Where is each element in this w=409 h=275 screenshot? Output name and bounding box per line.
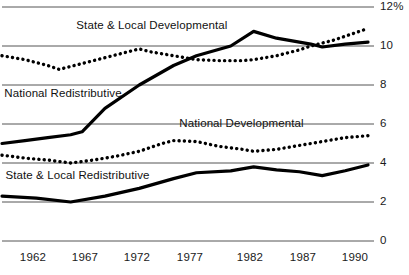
y-axis-label-8: 8 <box>380 78 387 90</box>
y-axis-label-2: 2 <box>380 195 387 207</box>
series-label-3: State & Local Redistributive <box>5 169 149 181</box>
x-axis-label-1987: 1987 <box>290 251 316 263</box>
y-axis-label-0: 0 <box>380 234 387 246</box>
series-label-1: National Redistributive <box>4 87 121 99</box>
x-axis-label-1977: 1977 <box>177 251 203 263</box>
series-line-1 <box>2 28 368 69</box>
x-axis-label-1972: 1972 <box>124 251 150 263</box>
series-label-2: National Developmental <box>179 117 303 129</box>
y-axis-label-6: 6 <box>380 117 387 129</box>
x-axis-label-1967: 1967 <box>72 251 98 263</box>
series-line-2 <box>2 136 368 163</box>
y-axis-label-4: 4 <box>380 156 387 168</box>
x-axis-label-1982: 1982 <box>237 251 263 263</box>
x-axis-label-1990: 1990 <box>342 251 368 263</box>
y-axis-label-12: 12% <box>380 0 404 12</box>
y-axis-label-10: 10 <box>380 39 393 51</box>
chart-container: 024681012% 1962196719721977198219871990 … <box>0 0 409 275</box>
chart-plot-area <box>0 0 409 275</box>
series-label-0: State & Local Developmental <box>76 19 227 31</box>
x-axis-label-1962: 1962 <box>20 251 46 263</box>
